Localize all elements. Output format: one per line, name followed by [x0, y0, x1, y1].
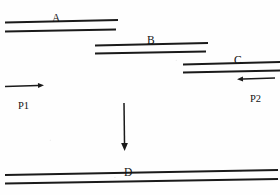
fragment-a-bottom-strand — [5, 30, 116, 32]
primer-p2-arrowhead — [237, 76, 243, 81]
product-d-bottom-strand — [5, 179, 278, 184]
fragment-a-duplex — [5, 20, 118, 32]
fragment-c-top-strand — [183, 62, 280, 65]
fragment-b-label: B — [147, 35, 155, 47]
primer-p1-shaft — [5, 86, 38, 87]
diagram-canvas — [0, 0, 280, 195]
fragment-c-label: C — [234, 55, 242, 67]
primer-p2-shaft — [243, 78, 275, 79]
fragment-c-bottom-strand — [183, 71, 280, 73]
product-d-duplex — [5, 170, 278, 184]
primer-p1-arrow — [5, 83, 44, 88]
product-d-label: D — [124, 167, 132, 179]
primer-p2-label: P2 — [250, 94, 261, 105]
assembly-diagram: A B C P1 P2 D — [0, 0, 280, 195]
assembly-reaction-arrow — [121, 103, 128, 151]
fragment-c-duplex — [183, 62, 280, 73]
product-d-top-strand — [5, 170, 278, 175]
fragment-b-bottom-strand — [95, 52, 206, 54]
primer-p2-arrow — [237, 76, 275, 81]
fragment-a-label: A — [52, 13, 60, 25]
fragment-a-top-strand — [5, 20, 118, 23]
primer-p1-arrowhead — [38, 83, 44, 88]
primer-p1-label: P1 — [18, 101, 29, 112]
assembly-arrow-head — [121, 143, 128, 151]
assembly-arrow-shaft — [124, 103, 125, 143]
